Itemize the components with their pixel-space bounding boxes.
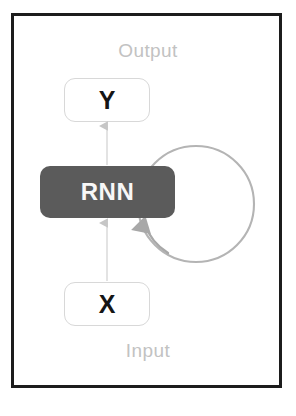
diagram-canvas: Output Y RNN X Input [0, 0, 296, 416]
node-rnn[interactable]: RNN [40, 166, 175, 218]
node-rnn-label: RNN [81, 180, 135, 204]
